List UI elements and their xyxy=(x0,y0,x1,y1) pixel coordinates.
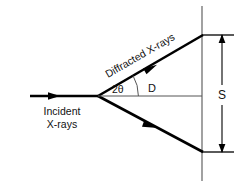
incident-label-line2: X-rays xyxy=(47,118,77,130)
figure-canvas: Incident X-rays Diffracted X-rays 2θ D S xyxy=(0,0,241,186)
xrd-geometry-diagram: Incident X-rays Diffracted X-rays 2θ D S xyxy=(0,0,241,186)
incident-label-line1: Incident xyxy=(44,105,81,117)
distance-D-label: D xyxy=(148,82,156,94)
separation-S-label: S xyxy=(218,88,226,102)
two-theta-label: 2θ xyxy=(112,83,124,95)
